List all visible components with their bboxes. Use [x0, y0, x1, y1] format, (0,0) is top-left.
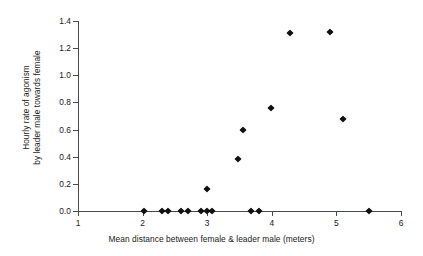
x-axis-tick-label: 3 — [205, 218, 210, 228]
y-axis-tick — [73, 102, 78, 103]
x-axis-tick — [272, 211, 273, 216]
y-axis-tick — [73, 184, 78, 185]
data-point — [267, 104, 274, 111]
y-axis-label-text: Hourly rate of agonism by leader male to… — [22, 50, 43, 164]
plot-area: 0.00.20.40.60.81.01.21.4123456 — [78, 21, 401, 211]
x-axis-line — [78, 211, 402, 212]
y-axis-tick — [73, 157, 78, 158]
y-axis-tick-label: 1.0 — [59, 70, 71, 80]
data-point — [204, 186, 211, 193]
y-axis-tick-label: 0.6 — [59, 125, 71, 135]
y-axis-label: Hourly rate of agonism by leader male to… — [14, 0, 50, 214]
y-axis-tick — [73, 48, 78, 49]
data-point — [140, 207, 147, 214]
y-axis-tick — [73, 75, 78, 76]
scatter-plot-figure: Hourly rate of agonism by leader male to… — [0, 0, 423, 256]
y-axis-tick-label: 0.4 — [59, 152, 71, 162]
data-point — [365, 207, 372, 214]
y-axis-tick — [73, 21, 78, 22]
y-axis-tick-label: 1.4 — [59, 16, 71, 26]
data-point — [235, 155, 242, 162]
y-axis-label-line-2: by leader male towards female — [32, 50, 43, 164]
x-axis-tick — [78, 211, 79, 216]
x-axis-tick — [401, 211, 402, 216]
y-axis-tick — [73, 130, 78, 131]
data-point — [184, 207, 191, 214]
y-axis-tick-label: 0.2 — [59, 179, 71, 189]
y-axis-tick-label: 1.2 — [59, 43, 71, 53]
x-axis-tick — [336, 211, 337, 216]
x-axis-label: Mean distance between female & leader ma… — [0, 234, 423, 244]
x-axis-tick-label: 2 — [140, 218, 145, 228]
y-axis-tick-label: 0.8 — [59, 97, 71, 107]
y-axis-tick-label: 0.0 — [59, 206, 71, 216]
x-axis-tick-label: 6 — [399, 218, 404, 228]
data-point — [165, 207, 172, 214]
data-point — [339, 116, 346, 123]
x-axis-tick-label: 5 — [334, 218, 339, 228]
data-point — [239, 127, 246, 134]
x-axis-tick-label: 1 — [76, 218, 81, 228]
y-axis-label-line-1: Hourly rate of agonism — [22, 50, 33, 164]
data-point — [255, 207, 262, 214]
data-point — [248, 207, 255, 214]
x-axis-tick-label: 4 — [269, 218, 274, 228]
data-point — [286, 30, 293, 37]
data-point — [326, 28, 333, 35]
